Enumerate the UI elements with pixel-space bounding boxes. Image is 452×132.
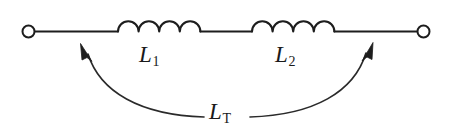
inductor-1-label: L1 bbox=[139, 43, 159, 66]
total-arc-right-arrowhead bbox=[362, 43, 373, 62]
total-inductance-label: LT bbox=[209, 100, 231, 123]
inductor-2-label-symbol: L bbox=[275, 42, 288, 67]
circuit-diagram: L1 L2 LT bbox=[0, 0, 452, 132]
inductor-2-label: L2 bbox=[275, 43, 295, 66]
total-arc-right-segment bbox=[250, 53, 366, 117]
inductor-1-coil bbox=[118, 21, 200, 31]
inductor-1-label-symbol: L bbox=[139, 42, 152, 67]
total-arc-left-arrowhead bbox=[81, 44, 93, 62]
terminal-right-circle bbox=[418, 26, 430, 38]
terminal-left-circle bbox=[23, 26, 35, 38]
inductor-2-coil bbox=[252, 21, 334, 31]
inductor-1-label-subscript: 1 bbox=[153, 54, 160, 69]
inductor-2-label-subscript: 2 bbox=[289, 54, 296, 69]
total-inductance-label-symbol: L bbox=[209, 99, 222, 124]
total-inductance-label-subscript: T bbox=[223, 111, 232, 126]
